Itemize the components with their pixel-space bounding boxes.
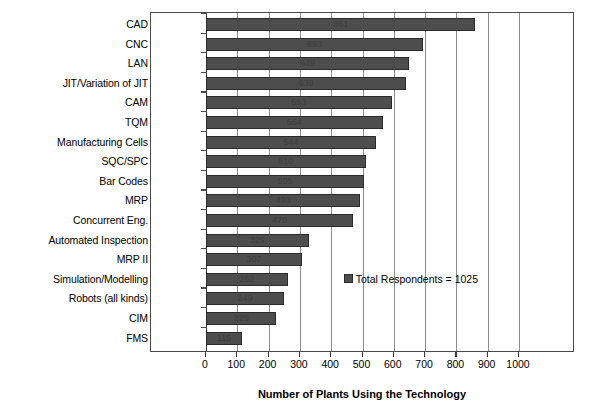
x-axis: 01002003004005006007008009001000 [150,352,574,382]
category-name: Bar Codes [99,175,148,187]
x-axis-tick-label: 100 [228,358,246,370]
bar-row: 115 [151,330,573,348]
bar-value-label: 861 [333,19,348,29]
bar-value-label: 470 [272,215,287,225]
chart-legend: Total Respondents = 1025 [344,273,478,285]
category-name: CNC [126,38,148,50]
y-axis-tick [201,268,206,269]
bar-value-label: 510 [278,156,293,166]
y-axis-tick [201,189,206,190]
category-name: CIM [129,312,148,324]
category-name: CAD [126,18,148,30]
bar-value-label: 593 [291,97,306,107]
x-axis-tick [236,352,237,357]
y-axis-tick [201,52,206,53]
bar-value-label: 225 [234,313,249,323]
x-axis-tick [455,352,456,357]
x-axis-tick-label: 400 [321,358,339,370]
plot-area: 8616936496395935645445105054934703293072… [150,12,574,352]
category-name: Automated Inspection [48,234,148,246]
x-axis-tick-label: 600 [384,358,402,370]
bar-row: 510 [151,153,573,171]
x-axis-tick-label: 300 [290,358,308,370]
y-axis-tick [201,307,206,308]
x-axis-tick [268,352,269,357]
y-axis-tick [201,111,206,112]
x-axis-tick-label: 800 [447,358,465,370]
bar-row: 564 [151,114,573,132]
x-axis-title: Number of Plants Using the Technology [150,388,574,400]
bar-row: 861 [151,16,573,34]
bar-value-label: 249 [237,293,252,303]
y-axis-tick [201,33,206,34]
x-axis-tick [362,352,363,357]
y-axis-tick [201,229,206,230]
y-axis-tick [201,170,206,171]
bar-row: 307 [151,251,573,269]
bar-value-label: 115 [217,333,231,343]
bar-row: 225 [151,310,573,328]
category-name: MRP [125,194,148,206]
category-name: FMS [126,332,148,344]
category-name: Robots (all kinds) [69,292,148,304]
x-axis-tick [299,352,300,357]
category-name: LAN [128,57,148,69]
bar-row: 249 [151,290,573,308]
category-name: Simulation/Modelling [53,273,148,285]
x-axis-tick-label: 1000 [506,358,529,370]
legend-swatch-icon [344,274,353,283]
category-name: MRP II [117,253,148,265]
bar-row: 470 [151,212,573,230]
category-name: Manufacturing Cells [57,136,148,148]
x-axis-tick [487,352,488,357]
y-axis-tick [201,150,206,151]
x-axis-tick [330,352,331,357]
y-axis-tick [201,13,206,14]
category-name: TQM [125,116,148,128]
bar-row: 329 [151,232,573,250]
y-axis-tick [201,248,206,249]
bar-value-label: 307 [247,254,262,264]
x-axis-tick [518,352,519,357]
x-axis-tick [205,352,206,357]
bar-row: 649 [151,55,573,73]
bar-row: 505 [151,173,573,191]
bar-chart: CAD84.0%CNC67.6%LAN63.3%JIT/Variation of… [0,0,597,418]
category-name: CAM [125,96,148,108]
y-axis-tick [201,327,206,328]
category-name: JIT/Variation of JIT [63,77,148,89]
x-axis-tick-label: 700 [415,358,433,370]
bar-value-label: 329 [250,235,265,245]
y-axis-tick [201,209,206,210]
bar-value-label: 639 [298,78,313,88]
y-axis-tick [201,72,206,73]
bar-value-label: 544 [284,137,299,147]
x-axis-tick [424,352,425,357]
bar-value-label: 649 [300,58,315,68]
bar-row: 593 [151,94,573,112]
bar-value-label: 493 [276,195,291,205]
x-axis-tick-label: 900 [478,358,496,370]
x-axis-tick-label: 500 [353,358,371,370]
bar-value-label: 505 [278,176,293,186]
bar-row: 544 [151,134,573,152]
bar-row: 693 [151,36,573,54]
bar-row: 493 [151,192,573,210]
category-name: SQC/SPC [101,155,148,167]
bar-value-label: 693 [307,39,322,49]
bars-layer: 8616936496395935645445105054934703293072… [151,13,573,351]
bar-value-label: 262 [239,274,254,284]
y-axis-tick [201,287,206,288]
legend-label: Total Respondents = 1025 [356,273,478,285]
bar-row: 639 [151,75,573,93]
y-axis-tick [201,91,206,92]
y-axis-tick [201,131,206,132]
x-axis-tick-label: 200 [259,358,277,370]
x-axis-tick [393,352,394,357]
x-axis-tick-label: 0 [202,358,208,370]
category-name: Concurrent Eng. [73,214,148,226]
bar-value-label: 564 [287,117,302,127]
